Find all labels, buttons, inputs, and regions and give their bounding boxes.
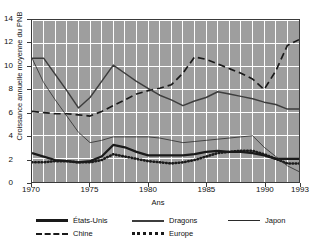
y-tick-mark bbox=[27, 42, 31, 43]
legend-label: Chine bbox=[73, 230, 93, 238]
y-tick-label: 4 bbox=[0, 132, 13, 140]
data-series-layer bbox=[32, 20, 299, 182]
x-tick-mark bbox=[206, 183, 207, 187]
legend-line-swatch bbox=[132, 220, 164, 222]
plot-area bbox=[31, 19, 300, 183]
y-tick-mark bbox=[27, 89, 31, 90]
y-tick-label: 8 bbox=[0, 85, 13, 93]
x-tick-mark bbox=[89, 183, 90, 187]
y-tick-mark bbox=[27, 66, 31, 67]
legend-item[interactable]: Chine bbox=[36, 230, 132, 238]
legend-line-swatch bbox=[228, 220, 260, 221]
y-tick-mark bbox=[27, 160, 31, 161]
y-tick-label: 10 bbox=[0, 62, 13, 70]
legend-line-swatch bbox=[36, 233, 68, 235]
x-tick-label: 1980 bbox=[128, 186, 168, 194]
x-tick-mark bbox=[148, 183, 149, 187]
legend-line-swatch bbox=[132, 232, 164, 235]
x-tick-mark bbox=[265, 183, 266, 187]
y-tick-mark bbox=[27, 113, 31, 114]
x-tick-label: 1975 bbox=[69, 186, 109, 194]
x-tick-mark bbox=[31, 183, 32, 187]
legend-label: États-Unis bbox=[73, 217, 108, 225]
y-tick-label: 2 bbox=[0, 156, 13, 164]
x-tick-label: 1970 bbox=[11, 186, 51, 194]
legend-item[interactable]: Europe bbox=[132, 230, 228, 238]
series-line bbox=[32, 40, 299, 116]
y-tick-label: 6 bbox=[0, 109, 13, 117]
x-tick-mark bbox=[300, 183, 301, 187]
legend-item[interactable]: Dragons bbox=[132, 217, 228, 225]
x-axis-title: Ans bbox=[0, 198, 316, 207]
legend-item[interactable]: Japon bbox=[228, 217, 308, 225]
y-tick-label: 14 bbox=[0, 15, 13, 23]
legend-label: Dragons bbox=[169, 217, 197, 225]
y-tick-mark bbox=[27, 19, 31, 20]
y-axis-title: Croissance annuelle moyenne du PNB bbox=[16, 1, 24, 151]
legend-line-swatch bbox=[36, 219, 68, 222]
legend-label: Japon bbox=[265, 217, 285, 225]
x-tick-label: 1985 bbox=[186, 186, 226, 194]
x-tick-label: 1993 bbox=[280, 186, 316, 194]
chart-legend: États-UnisDragonsJaponChineEurope bbox=[36, 214, 286, 240]
y-tick-mark bbox=[27, 136, 31, 137]
y-tick-label: 12 bbox=[0, 38, 13, 46]
legend-label: Europe bbox=[169, 230, 193, 238]
x-tick-label: 1990 bbox=[245, 186, 285, 194]
chart-figure: Croissance annuelle moyenne du PNB 02468… bbox=[0, 0, 316, 245]
legend-item[interactable]: États-Unis bbox=[36, 217, 132, 225]
series-line bbox=[32, 151, 299, 164]
